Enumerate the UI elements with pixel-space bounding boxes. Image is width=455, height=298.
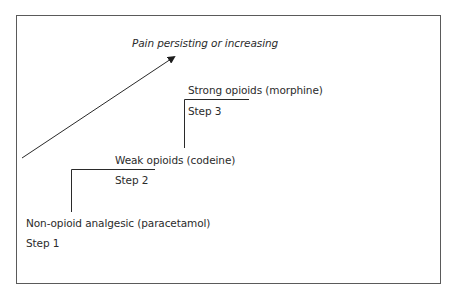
step-1-drug-label: Non-opioid analgesic (paracetamol) — [26, 217, 210, 229]
step-2-label: Step 2 — [115, 174, 148, 186]
step-2-drug-label: Weak opioids (codeine) — [115, 154, 235, 166]
step-3-drug-label: Strong opioids (morphine) — [188, 84, 323, 96]
pain-arrow — [22, 57, 174, 158]
arrow-label: Pain persisting or increasing — [132, 37, 278, 49]
step-1-label: Step 1 — [26, 237, 59, 249]
step-3-label: Step 3 — [188, 105, 221, 117]
